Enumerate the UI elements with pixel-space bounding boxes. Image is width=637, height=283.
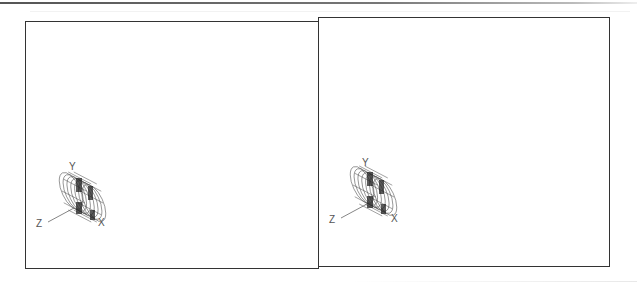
internal-part [90, 210, 95, 220]
top-divider [0, 2, 637, 4]
z-axis-label: Z [36, 218, 42, 229]
internal-part [379, 180, 384, 194]
faint-divider [30, 11, 630, 12]
internal-part [367, 172, 373, 186]
x-axis-label: X [98, 217, 105, 228]
y-axis-label: Y [69, 161, 76, 172]
cylinder-generatrix [355, 197, 378, 209]
x-axis-label: X [391, 213, 398, 224]
z-axis-line [48, 208, 74, 222]
model-view-right: Z Y X [319, 18, 613, 268]
internal-part [76, 178, 82, 192]
internal-part [76, 202, 82, 214]
viewport-left[interactable]: Z Y X [25, 21, 319, 269]
cylinder-wireframe [345, 163, 401, 219]
cylinder-generatrix [64, 203, 87, 215]
bottom-divider [350, 281, 637, 282]
z-axis-line [341, 204, 367, 218]
model-view-left: Z Y X [26, 22, 320, 272]
z-axis-label: Z [329, 214, 335, 225]
internal-part [367, 196, 373, 208]
internal-part [381, 204, 386, 214]
y-axis-label: Y [362, 157, 369, 168]
viewport-right[interactable]: Z Y X [318, 17, 610, 267]
internal-part [88, 186, 93, 200]
